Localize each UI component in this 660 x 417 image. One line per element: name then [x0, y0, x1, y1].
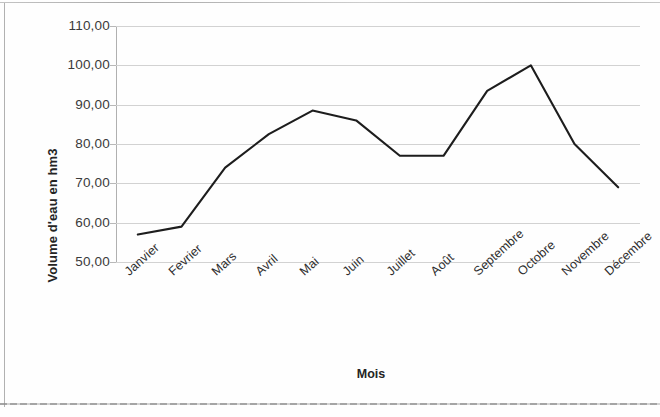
gridline [116, 183, 640, 184]
y-axis-tick [110, 26, 116, 27]
x-axis-title-row: Mois [0, 367, 660, 381]
y-axis-tick [110, 183, 116, 184]
y-axis-tick [110, 65, 116, 66]
gridline [116, 223, 640, 224]
y-axis-tick [110, 105, 116, 106]
gridline [116, 105, 640, 106]
y-axis-tick [110, 262, 116, 263]
plot-area [116, 26, 640, 262]
y-axis-tick [110, 144, 116, 145]
line-chart: 110,00100,0090,0080,0070,0060,0050,00 Vo… [0, 0, 660, 417]
y-axis-title-wrapper: Volume d'eau en hm3 [24, 30, 48, 260]
gridline [116, 65, 640, 66]
gridline [116, 144, 640, 145]
x-axis-tick-labels: JanvierFevrierMarsAvrilMaiJuinJuilletAoû… [0, 262, 660, 362]
gridline [116, 26, 640, 27]
y-axis-tick [110, 223, 116, 224]
x-axis-title: Mois [357, 367, 385, 381]
